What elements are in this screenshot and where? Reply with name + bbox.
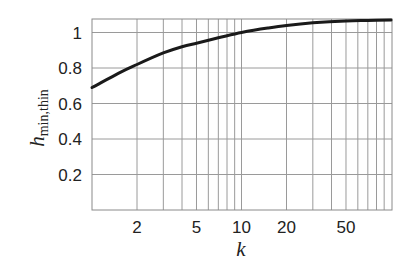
x-tick-label: 2 (132, 218, 141, 237)
x-tick-label: 20 (277, 218, 296, 237)
y-axis-label-main: h (25, 136, 49, 147)
y-axis-label-subscript: min,thin (36, 89, 51, 136)
x-tick-labels: 25102050 (132, 218, 355, 237)
chart: 0.20.40.60.81 25102050 k hmin,thin (0, 0, 415, 275)
x-axis-label: k (236, 237, 246, 261)
y-tick-label: 0.6 (58, 95, 82, 114)
gridlines (92, 19, 392, 210)
y-axis-label: hmin,thin (25, 89, 51, 147)
y-tick-labels: 0.20.40.60.81 (58, 24, 82, 185)
x-tick-label: 50 (337, 218, 356, 237)
y-tick-label: 0.8 (58, 59, 82, 78)
x-tick-label: 10 (232, 218, 251, 237)
y-tick-label: 0.2 (58, 166, 82, 185)
x-tick-label: 5 (192, 218, 201, 237)
y-tick-label: 0.4 (58, 130, 82, 149)
y-tick-label: 1 (73, 24, 82, 43)
